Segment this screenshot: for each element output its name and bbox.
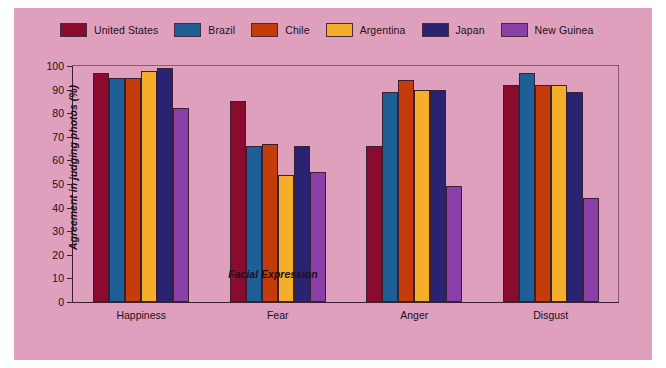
legend-item-united-states[interactable]: United States bbox=[60, 19, 174, 41]
legend-item-new-guinea[interactable]: New Guinea bbox=[501, 19, 610, 41]
y-axis-tick-label: 0 bbox=[58, 296, 64, 308]
bar[interactable] bbox=[382, 92, 398, 302]
y-axis-tick bbox=[67, 184, 73, 185]
y-axis-tick bbox=[67, 113, 73, 114]
bar[interactable] bbox=[278, 175, 294, 302]
bar[interactable] bbox=[109, 78, 125, 302]
bar[interactable] bbox=[567, 92, 583, 302]
bar[interactable] bbox=[173, 108, 189, 302]
legend-item-chile[interactable]: Chile bbox=[251, 19, 325, 41]
y-axis-tick-label: 90 bbox=[52, 84, 64, 96]
bar[interactable] bbox=[503, 85, 519, 302]
legend-swatch-icon bbox=[60, 23, 87, 37]
x-axis-tick-label: Fear bbox=[267, 309, 289, 321]
bar[interactable] bbox=[141, 71, 157, 302]
legend-swatch-icon bbox=[501, 23, 528, 37]
legend-label: Argentina bbox=[360, 24, 406, 36]
y-axis-tick-label: 40 bbox=[52, 202, 64, 214]
bar[interactable] bbox=[366, 146, 382, 302]
x-axis-tick-label: Disgust bbox=[533, 309, 568, 321]
bar-group-fear bbox=[230, 66, 326, 302]
bar-group-disgust bbox=[503, 66, 599, 302]
bar[interactable] bbox=[519, 73, 535, 302]
y-axis-tick-label: 30 bbox=[52, 225, 64, 237]
y-axis-tick bbox=[67, 278, 73, 279]
y-axis-tick bbox=[67, 302, 73, 303]
y-axis-tick-label: 50 bbox=[52, 178, 64, 190]
y-axis-tick-label: 60 bbox=[52, 154, 64, 166]
y-axis-tick-label: 70 bbox=[52, 131, 64, 143]
bar[interactable] bbox=[125, 78, 141, 302]
plot-area: Agreement in judging photos (%) 01020304… bbox=[72, 66, 619, 303]
bar[interactable] bbox=[310, 172, 326, 302]
legend-label: United States bbox=[94, 24, 158, 36]
legend-swatch-icon bbox=[174, 23, 201, 37]
y-axis-tick bbox=[67, 66, 73, 67]
y-axis-tick-label: 100 bbox=[46, 60, 64, 72]
y-axis-tick bbox=[67, 231, 73, 232]
legend-swatch-icon bbox=[251, 23, 278, 37]
legend-label: Brazil bbox=[208, 24, 235, 36]
x-axis-tick-label: Happiness bbox=[116, 309, 166, 321]
bar[interactable] bbox=[535, 85, 551, 302]
legend-label: Chile bbox=[285, 24, 309, 36]
legend-item-japan[interactable]: Japan bbox=[422, 19, 501, 41]
x-axis-tick-label: Anger bbox=[400, 309, 428, 321]
chart-legend: United StatesBrazilChileArgentinaJapanNe… bbox=[60, 18, 626, 42]
legend-item-argentina[interactable]: Argentina bbox=[326, 19, 422, 41]
y-axis-tick-label: 20 bbox=[52, 249, 64, 261]
x-axis-title: Facial Expression bbox=[228, 268, 317, 280]
bar[interactable] bbox=[583, 198, 599, 302]
legend-item-brazil[interactable]: Brazil bbox=[174, 19, 251, 41]
bar[interactable] bbox=[398, 80, 414, 302]
y-axis-title: Agreement in judging photos (%) bbox=[67, 85, 79, 250]
y-axis-tick bbox=[67, 137, 73, 138]
bar[interactable] bbox=[430, 90, 446, 302]
bar-group-anger bbox=[366, 66, 462, 302]
y-axis-tick-label: 10 bbox=[52, 272, 64, 284]
y-axis-tick bbox=[67, 90, 73, 91]
y-axis-tick bbox=[67, 255, 73, 256]
legend-label: Japan bbox=[456, 24, 485, 36]
bar[interactable] bbox=[157, 68, 173, 302]
legend-swatch-icon bbox=[422, 23, 449, 37]
legend-swatch-icon bbox=[326, 23, 353, 37]
bar[interactable] bbox=[414, 90, 430, 302]
y-axis-tick-label: 80 bbox=[52, 107, 64, 119]
chart-figure: United StatesBrazilChileArgentinaJapanNe… bbox=[0, 0, 666, 368]
y-axis-tick bbox=[67, 160, 73, 161]
bar[interactable] bbox=[93, 73, 109, 302]
bar[interactable] bbox=[551, 85, 567, 302]
y-axis-tick bbox=[67, 208, 73, 209]
bar-group-happiness bbox=[93, 66, 189, 302]
legend-label: New Guinea bbox=[535, 24, 594, 36]
bar[interactable] bbox=[446, 186, 462, 302]
